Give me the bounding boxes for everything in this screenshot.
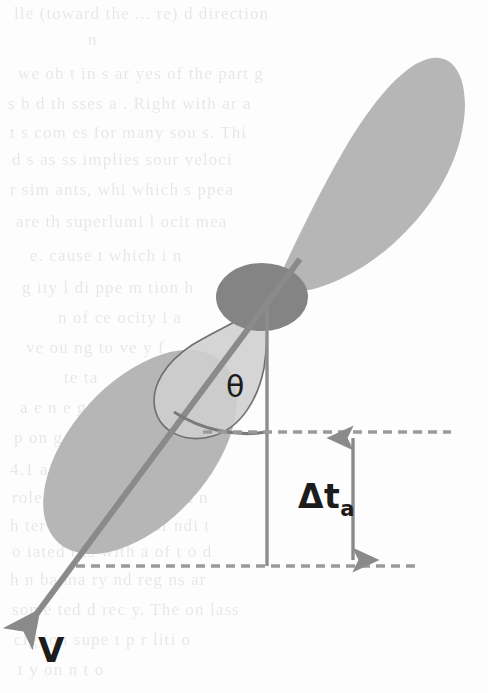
delta-t-subscript: a (340, 497, 355, 521)
delta-t-main-text: Δt (298, 477, 340, 516)
upper-jet-lobe (275, 58, 465, 292)
figure-canvas: lle (toward the ... re) d directionnwe o… (0, 0, 488, 693)
theta-angle-label: θ (226, 369, 244, 404)
core-nucleus (216, 263, 308, 331)
jet-geometry-diagram (0, 0, 488, 693)
velocity-label: V (38, 630, 64, 670)
delta-t-label: Δta (298, 477, 355, 521)
